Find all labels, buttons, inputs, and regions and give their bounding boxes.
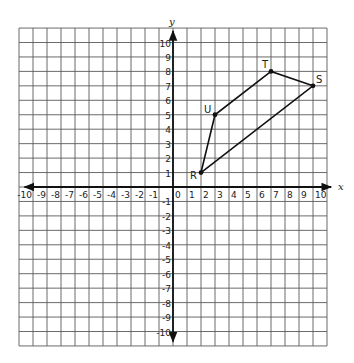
y-axis-label: y	[168, 16, 175, 27]
x-tick-label: 4	[231, 190, 237, 200]
y-tick-label: -1	[162, 197, 171, 207]
x-tick-label: 3	[217, 190, 223, 200]
y-tick-label: 2	[165, 154, 171, 164]
x-tick-label: 0	[175, 190, 181, 200]
y-tick-label: 1	[165, 169, 171, 179]
vertex-label-s: S	[316, 74, 322, 85]
y-tick-label: -10	[156, 328, 171, 338]
vertex-point-s	[311, 83, 316, 88]
x-tick-label: -1	[149, 190, 158, 200]
y-tick-label: 4	[165, 125, 171, 135]
x-tick-label: -6	[79, 190, 88, 200]
x-tick-label: -8	[51, 190, 60, 200]
x-tick-label: 9	[301, 190, 307, 200]
x-tick-label: 6	[259, 190, 265, 200]
y-tick-label: -3	[162, 226, 171, 236]
y-tick-label: 9	[165, 53, 171, 63]
y-tick-label: -8	[162, 299, 171, 309]
y-tick-label: 5	[165, 111, 171, 121]
vertex-point-t	[269, 69, 274, 74]
y-tick-label: 7	[165, 82, 171, 92]
y-tick-label: -6	[162, 270, 171, 280]
x-tick-label: 8	[287, 190, 293, 200]
coordinate-plane: -10-9-8-7-6-5-4-3-2-1012345678910 -10-9-…	[0, 0, 354, 363]
y-tick-label: -4	[162, 241, 171, 251]
y-tick-label: 6	[165, 96, 171, 106]
x-tick-label: 1	[189, 190, 195, 200]
vertex-label-u: U	[204, 104, 211, 115]
x-tick-label: 5	[245, 190, 251, 200]
vertex-label-t: T	[261, 59, 269, 70]
polygon-rstu: RSTU	[190, 59, 322, 180]
vertex-label-r: R	[190, 170, 197, 181]
y-tick-label: -5	[162, 255, 171, 265]
y-tick-label: 10	[160, 39, 172, 49]
x-tick-label: 10	[315, 190, 327, 200]
y-tick-label: -9	[162, 313, 171, 323]
y-tick-label: 8	[165, 67, 171, 77]
x-tick-label: -7	[65, 190, 74, 200]
y-tick-label: -7	[162, 284, 171, 294]
x-tick-label: -4	[107, 190, 116, 200]
y-tick-label: -2	[162, 212, 171, 222]
x-tick-label: -9	[37, 190, 46, 200]
x-axis-label: x	[338, 181, 344, 192]
y-tick-labels: -10-9-8-7-6-5-4-3-2-112345678910	[156, 39, 171, 338]
y-tick-label: 3	[165, 140, 171, 150]
vertex-point-r	[199, 170, 204, 175]
x-tick-label: -10	[17, 190, 32, 200]
x-tick-label: -2	[135, 190, 144, 200]
x-tick-label: 7	[273, 190, 279, 200]
x-tick-label: 2	[203, 190, 209, 200]
vertex-point-u	[213, 112, 218, 117]
x-tick-labels: -10-9-8-7-6-5-4-3-2-1012345678910	[17, 190, 326, 200]
x-tick-label: -3	[121, 190, 130, 200]
x-tick-label: -5	[93, 190, 102, 200]
